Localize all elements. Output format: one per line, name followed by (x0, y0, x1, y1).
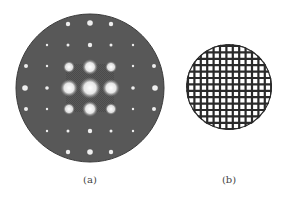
caption-b: (b) (214, 174, 244, 185)
figure-canvas (0, 0, 282, 197)
panel-b-mesh-grid (186, 44, 272, 130)
panel-a-diffraction-pattern (16, 14, 164, 162)
caption-a: (a) (75, 174, 105, 185)
